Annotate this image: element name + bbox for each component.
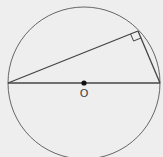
circle-diagram: O <box>0 0 163 157</box>
center-label: O <box>80 87 89 100</box>
center-point <box>81 80 86 85</box>
chord-vertex-to-right <box>138 31 160 83</box>
chord-left-to-vertex <box>8 31 138 83</box>
